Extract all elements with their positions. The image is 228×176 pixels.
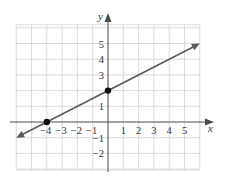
y-tick-label: −1 [93,133,104,144]
x-tick-label: 5 [182,125,187,136]
y-tick-label: 1 [99,101,104,112]
line-graph: x y −4−3−2−1123455431−1−2 [0,0,228,176]
x-tick-label: 1 [121,125,126,136]
y-tick-label: 5 [99,39,104,50]
y-tick-label: −2 [93,148,104,159]
x-tick-label: 2 [136,125,141,136]
y-axis-arrow-icon [105,13,112,22]
x-tick-label: −4 [40,125,52,136]
y-axis-label: y [97,10,103,22]
y-tick-label: 3 [99,70,104,81]
x-axis-label: x [207,122,213,134]
x-tick-label: −3 [56,125,67,136]
x-tick-label: −2 [71,125,82,136]
y-tick-label: 4 [99,54,105,65]
data-point [44,119,50,125]
data-point [105,87,111,93]
x-tick-label: 3 [151,125,156,136]
x-tick-label: 4 [167,125,173,136]
